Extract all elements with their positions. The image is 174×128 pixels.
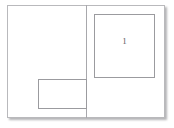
- region-label-1: 1: [95, 37, 154, 46]
- region-box-2[interactable]: [38, 79, 87, 109]
- region-box-1[interactable]: 1: [94, 14, 155, 78]
- diagram-canvas: 1: [0, 0, 174, 128]
